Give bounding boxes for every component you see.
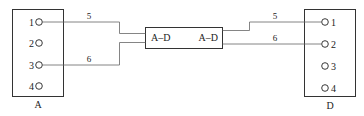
connector-d-pin-2-label: 2: [331, 39, 336, 50]
connector-d-label: D: [326, 100, 333, 111]
wire-6-left-label: 6: [87, 54, 92, 64]
connector-a-pin-1-label: 1: [29, 17, 34, 28]
wire-5-right-label: 5: [273, 11, 278, 21]
wire-5-right-segment: [223, 22, 322, 31]
connector-a-label: A: [34, 99, 42, 110]
connector-a-pin-4: [36, 83, 43, 90]
connector-d-pin-4-label: 4: [331, 83, 336, 94]
connector-a-pin-3: [36, 62, 43, 69]
connector-a-pin-1: [36, 19, 43, 26]
connector-d-pin-2: [322, 41, 329, 48]
connector-a-pin-3-label: 3: [29, 60, 34, 71]
wire-6-left-segment: [42, 43, 145, 66]
wire-5: 5 5: [42, 11, 321, 34]
connector-d-pin-3-label: 3: [331, 61, 336, 72]
wire-6-right-label: 6: [273, 33, 278, 43]
connector-d-pin-4: [322, 85, 329, 92]
adapter-left-label: A–D: [151, 32, 170, 43]
adapter-right-label: A–D: [199, 32, 218, 43]
connector-d-pin-1: [322, 19, 329, 26]
connector-a-pin-2: [36, 40, 43, 47]
wire-5-left-label: 5: [87, 11, 92, 21]
wiring-diagram: 1 2 3 4 A A–D A–D 1 2 3 4 D 5 5 6: [0, 0, 364, 116]
connector-a-pin-2-label: 2: [29, 38, 34, 49]
connector-d-box: [305, 10, 356, 97]
connector-d-pin-3: [322, 63, 329, 70]
connector-a: 1 2 3 4 A: [13, 10, 64, 111]
connector-a-pin-4-label: 4: [29, 81, 34, 92]
adapter: A–D A–D: [146, 28, 223, 49]
connector-d-pin-1-label: 1: [331, 17, 336, 28]
wire-5-left-segment: [42, 22, 145, 34]
connector-d: 1 2 3 4 D: [305, 10, 356, 112]
